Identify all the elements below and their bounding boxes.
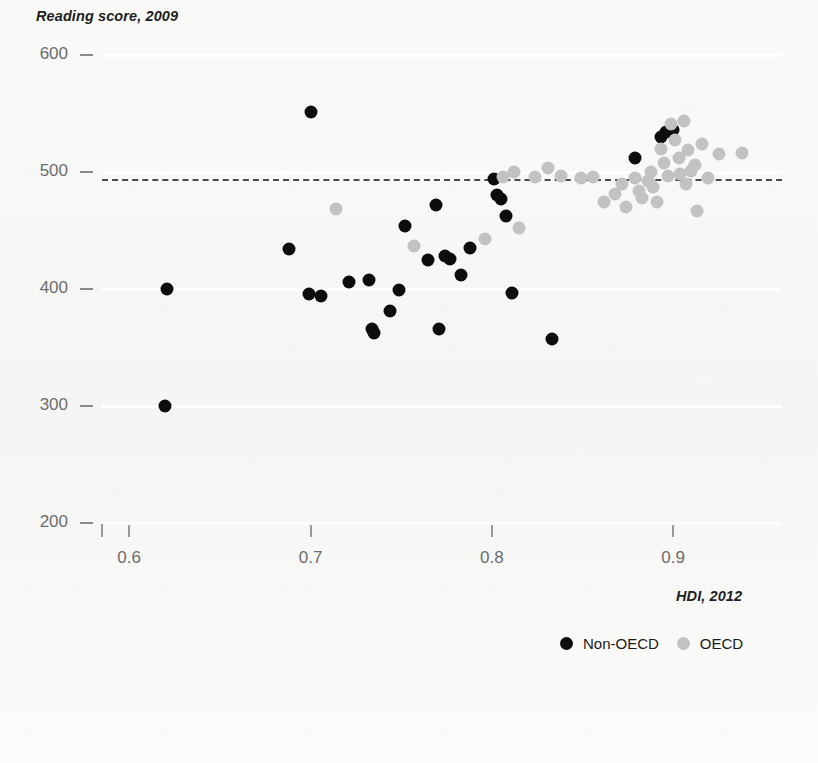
x-tick-label: 0.6 [99,548,159,568]
data-point-oecd [407,239,420,252]
data-point-non-oecd [444,252,457,265]
axis-origin-mark [101,524,103,537]
data-point-oecd [478,232,491,245]
x-tick-mark [672,524,674,537]
data-point-oecd [554,169,567,182]
x-tick-label: 0.7 [281,548,341,568]
data-point-oecd [736,147,749,160]
data-point-oecd [701,171,714,184]
y-tick-mark [80,171,93,173]
data-point-oecd [574,171,587,184]
legend-label: Non-OECD [583,635,659,652]
data-point-oecd [688,158,701,171]
data-point-non-oecd [429,198,442,211]
data-point-oecd [658,156,671,169]
data-point-oecd [616,177,629,190]
data-point-oecd [513,222,526,235]
x-tick-label: 0.9 [643,548,703,568]
legend-item[interactable]: OECD [677,635,743,652]
data-point-non-oecd [500,210,513,223]
y-tick-mark [80,54,93,56]
y-tick-mark [80,405,93,407]
data-point-oecd [661,169,674,182]
x-axis-title: HDI, 2012 [676,588,742,604]
y-tick-label: 600 [22,44,68,64]
data-point-oecd [529,170,542,183]
data-point-non-oecd [304,106,317,119]
data-point-non-oecd [433,322,446,335]
data-point-non-oecd [161,283,174,296]
data-point-non-oecd [302,287,315,300]
data-point-non-oecd [494,192,507,205]
data-point-oecd [329,203,342,216]
data-point-oecd [645,166,658,179]
legend-swatch-dot-icon [677,637,690,650]
x-tick-mark [310,524,312,537]
data-point-oecd [690,204,703,217]
data-point-non-oecd [398,219,411,232]
data-point-non-oecd [422,253,435,266]
data-point-non-oecd [384,305,397,318]
legend-item[interactable]: Non-OECD [560,635,659,652]
data-point-oecd [647,181,660,194]
data-point-oecd [681,143,694,156]
x-tick-mark [128,524,130,537]
gridline [102,54,782,57]
data-point-oecd [669,134,682,147]
y-tick-mark [80,522,93,524]
data-point-oecd [620,201,633,214]
data-point-non-oecd [505,286,518,299]
chart-page: Reading score, 2009 HDI, 2012 2003004005… [0,0,818,763]
y-axis-title: Reading score, 2009 [36,8,178,24]
data-point-non-oecd [159,400,172,413]
data-point-non-oecd [368,327,381,340]
data-point-non-oecd [393,284,406,297]
data-point-non-oecd [342,275,355,288]
plot-area [102,55,782,523]
gridline [102,288,782,291]
data-point-non-oecd [464,242,477,255]
data-point-oecd [678,114,691,127]
gridline [102,522,782,525]
data-point-oecd [654,142,667,155]
data-point-oecd [629,171,642,184]
data-point-non-oecd [545,333,558,346]
chart-legend: Non-OECDOECD [560,635,743,652]
legend-swatch-dot-icon [560,637,573,650]
data-point-oecd [507,166,520,179]
data-point-oecd [542,162,555,175]
y-tick-mark [80,288,93,290]
data-point-oecd [636,191,649,204]
y-tick-label: 200 [22,512,68,532]
x-tick-label: 0.8 [462,548,522,568]
y-tick-label: 300 [22,395,68,415]
legend-label: OECD [700,635,743,652]
data-point-oecd [587,170,600,183]
y-tick-label: 400 [22,278,68,298]
data-point-non-oecd [282,243,295,256]
data-point-non-oecd [315,290,328,303]
data-point-non-oecd [629,151,642,164]
data-point-oecd [679,177,692,190]
data-point-non-oecd [362,273,375,286]
data-point-oecd [665,118,678,131]
data-point-oecd [650,196,663,209]
x-tick-mark [491,524,493,537]
data-point-oecd [712,148,725,161]
gridline [102,405,782,408]
data-point-oecd [696,137,709,150]
y-tick-label: 500 [22,161,68,181]
data-point-non-oecd [455,268,468,281]
scatter-chart: Reading score, 2009 HDI, 2012 2003004005… [0,0,818,763]
